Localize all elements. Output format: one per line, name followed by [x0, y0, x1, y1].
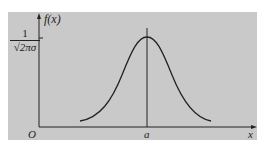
y-axis-label: f(x): [44, 12, 61, 27]
peak-value-label: 1 √2πσ: [10, 28, 40, 53]
y-axis-arrow-icon: [37, 13, 41, 19]
normal-curve-plot: [0, 0, 265, 151]
x-axis-label: x: [248, 128, 253, 140]
mean-label: a: [144, 128, 150, 140]
origin-label: O: [28, 128, 36, 140]
density-curve: [80, 37, 211, 121]
peak-numerator: 1: [10, 28, 40, 41]
peak-denominator: √2πσ: [10, 41, 40, 53]
